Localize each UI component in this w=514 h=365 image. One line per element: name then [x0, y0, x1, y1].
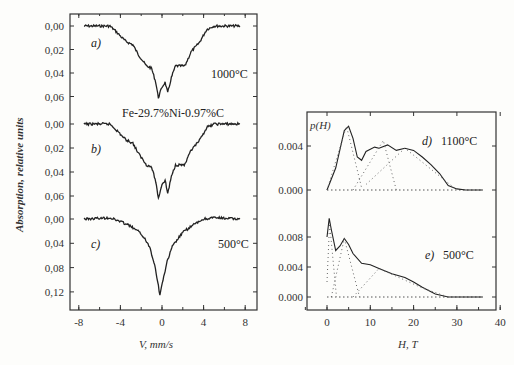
y-tick-label: 0,04: [45, 237, 65, 249]
right-y-axis-label: p(H): [309, 119, 331, 132]
x-tick-label: 20: [408, 316, 420, 328]
left-x-ticks: -8-4048: [74, 14, 248, 328]
y-tick-label: 0,00: [45, 118, 65, 130]
temp-d: 1100°C: [441, 134, 477, 148]
left-y-ticks: 0,000,020,040,060,000,020,040,060,000,04…: [45, 20, 257, 298]
y-tick-label: 0,12: [45, 286, 64, 298]
temp-a: 1000°C: [211, 67, 248, 81]
y-tick-label: 0,04: [45, 67, 65, 79]
label-b: b): [91, 142, 101, 156]
component-peak: [327, 126, 362, 190]
x-tick-label: 10: [365, 316, 377, 328]
compound-label: Fe-29.7%Ni-0.97%C: [122, 106, 224, 120]
y-tick-label: 0.000: [278, 291, 303, 303]
right-panel: 010203040 0.0040.0000.0080.0040.000 p(H)…: [278, 112, 506, 350]
y-tick-label: 0,00: [45, 20, 65, 32]
label-d: d): [422, 134, 432, 148]
x-tick-label: 0: [159, 316, 165, 328]
left-y-axis-label: Absorption, relative units: [13, 117, 25, 233]
left-x-axis-label: V, mm/s: [139, 338, 173, 350]
y-tick-label: 0,08: [45, 262, 65, 274]
y-tick-label: 0,06: [45, 91, 65, 103]
x-tick-label: 30: [451, 316, 463, 328]
component-peak: [366, 148, 457, 190]
component-peak: [353, 141, 396, 191]
x-tick-label: 40: [495, 316, 507, 328]
figure: -8-4048 0,000,020,040,060,000,020,040,06…: [0, 0, 514, 365]
y-tick-label: 0.004: [278, 261, 303, 273]
x-tick-label: 0: [324, 316, 330, 328]
right-x-axis-label: H, T: [397, 338, 418, 350]
left-panel: -8-4048 0,000,020,040,060,000,020,040,06…: [13, 14, 257, 350]
spectrum-line: [84, 25, 240, 99]
y-tick-label: 0,02: [45, 142, 64, 154]
spectrum-line: [84, 217, 240, 295]
right-distributions: [327, 126, 483, 297]
y-tick-label: 0,04: [45, 166, 65, 178]
spectrum-line: [84, 123, 240, 198]
x-tick-label: 4: [201, 316, 207, 328]
left-frame: [70, 14, 257, 310]
y-tick-label: 0,00: [45, 213, 65, 225]
temp-e: 500°C: [443, 248, 474, 262]
temp-c: 500°C: [218, 237, 249, 251]
y-tick-label: 0,02: [45, 44, 64, 56]
x-tick-label: -8: [74, 316, 84, 328]
y-tick-label: 0,06: [45, 190, 65, 202]
x-tick-label: 8: [242, 316, 248, 328]
x-tick-label: -4: [116, 316, 126, 328]
component-peak: [327, 224, 337, 298]
y-tick-label: 0.004: [278, 140, 303, 152]
left-spectra: [84, 25, 240, 295]
y-tick-label: 0.008: [278, 231, 303, 243]
right-y-ticks: 0.0040.0000.0080.0040.000: [278, 140, 496, 303]
label-c: c): [91, 237, 100, 251]
label-e: e): [425, 248, 434, 262]
y-tick-label: 0.000: [278, 184, 303, 196]
label-a: a): [91, 36, 101, 50]
